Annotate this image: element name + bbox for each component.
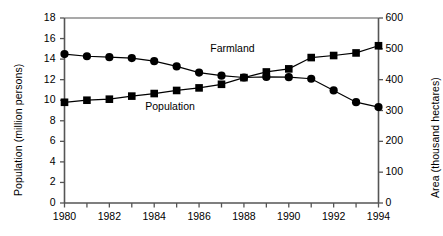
data-point-population-1983 bbox=[128, 92, 136, 100]
series-label-farmland: Farmland bbox=[210, 42, 254, 54]
data-point-population-1982 bbox=[106, 95, 114, 103]
data-point-population-1994 bbox=[375, 42, 383, 50]
y-tick-label-right-0: 0 bbox=[386, 196, 416, 208]
farmland-population-chart: Population (million persons) Area (thous… bbox=[0, 0, 443, 236]
y-tick-label-right-600: 600 bbox=[386, 11, 416, 23]
x-tick-label-1980: 1980 bbox=[45, 210, 85, 222]
data-point-population-1989 bbox=[263, 68, 271, 76]
data-point-population-1985 bbox=[173, 87, 181, 95]
data-point-farmland-1982 bbox=[105, 53, 113, 61]
y-tick-label-left-10: 10 bbox=[30, 93, 56, 105]
x-tick-label-1994: 1994 bbox=[359, 210, 399, 222]
y-tick-label-left-18: 18 bbox=[30, 11, 56, 23]
y-tick-label-left-6: 6 bbox=[30, 134, 56, 146]
y-tick-label-right-400: 400 bbox=[386, 73, 416, 85]
y-tick-label-right-100: 100 bbox=[386, 165, 416, 177]
y-tick-label-left-2: 2 bbox=[30, 175, 56, 187]
x-tick-label-1984: 1984 bbox=[134, 210, 174, 222]
x-tick-label-1988: 1988 bbox=[224, 210, 264, 222]
data-point-farmland-1994 bbox=[374, 103, 382, 111]
data-point-farmland-1990 bbox=[285, 73, 293, 81]
y-tick-label-right-200: 200 bbox=[386, 134, 416, 146]
y-tick-label-right-500: 500 bbox=[386, 42, 416, 54]
data-point-population-1984 bbox=[150, 90, 158, 98]
y-tick-label-left-4: 4 bbox=[30, 155, 56, 167]
data-point-population-1980 bbox=[61, 98, 69, 106]
x-tick-label-1992: 1992 bbox=[314, 210, 354, 222]
y-tick-label-left-0: 0 bbox=[30, 196, 56, 208]
data-point-farmland-1993 bbox=[352, 98, 360, 106]
data-point-population-1992 bbox=[330, 52, 338, 60]
data-point-farmland-1983 bbox=[128, 54, 136, 62]
data-point-population-1990 bbox=[285, 65, 293, 73]
x-tick-label-1990: 1990 bbox=[269, 210, 309, 222]
data-point-population-1991 bbox=[307, 54, 315, 62]
data-point-farmland-1991 bbox=[307, 75, 315, 83]
data-point-farmland-1987 bbox=[217, 72, 225, 80]
data-point-population-1987 bbox=[218, 80, 226, 88]
data-point-farmland-1992 bbox=[330, 86, 338, 94]
y-tick-label-left-14: 14 bbox=[30, 52, 56, 64]
plot-canvas bbox=[0, 0, 443, 236]
data-point-farmland-1980 bbox=[60, 50, 68, 58]
data-point-farmland-1985 bbox=[173, 62, 181, 70]
data-point-farmland-1984 bbox=[150, 57, 158, 65]
x-tick-label-1982: 1982 bbox=[89, 210, 129, 222]
y-tick-label-left-16: 16 bbox=[30, 32, 56, 44]
data-point-population-1986 bbox=[195, 84, 203, 92]
y-tick-label-left-12: 12 bbox=[30, 73, 56, 85]
series-label-population: Population bbox=[145, 100, 195, 112]
y-tick-label-right-300: 300 bbox=[386, 104, 416, 116]
data-point-farmland-1981 bbox=[83, 52, 91, 60]
data-point-population-1993 bbox=[352, 49, 360, 57]
x-tick-label-1986: 1986 bbox=[179, 210, 219, 222]
data-point-population-1981 bbox=[83, 96, 91, 104]
data-point-farmland-1986 bbox=[195, 68, 203, 76]
y-tick-label-left-8: 8 bbox=[30, 114, 56, 126]
data-point-population-1988 bbox=[240, 74, 248, 82]
